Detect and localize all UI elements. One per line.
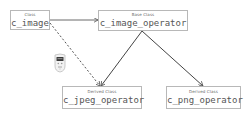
class-name: c_image [11,18,49,29]
class-name: c_png_operator [167,95,240,106]
class-node-c-png-operator[interactable]: Derived Class c_png_operator [166,86,241,109]
edge-base-to-png [142,31,203,86]
class-name: c_image_operator [99,18,187,29]
class-node-c-image[interactable]: Class c_image [10,10,50,30]
diagram-canvas: Class c_image Base Class c_image_operato… [0,0,248,118]
edge-base-to-jpeg [101,31,142,86]
class-node-c-jpeg-operator[interactable]: Derived Class c_jpeg_operator [62,86,142,109]
class-node-c-image-operator[interactable]: Base Class c_image_operator [98,10,188,31]
class-name: c_jpeg_operator [63,95,141,106]
robot-icon [53,53,67,73]
